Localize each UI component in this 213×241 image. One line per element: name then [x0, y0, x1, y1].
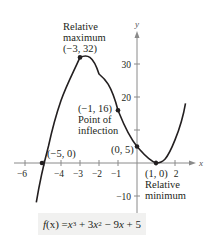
x-tick-label: −3 — [73, 169, 83, 179]
y-tick-label: 30 — [122, 60, 132, 70]
point-y-intercept — [135, 144, 140, 149]
point-relative-maximum — [78, 55, 83, 60]
svg-text:minimum: minimum — [145, 190, 186, 201]
x-axis-label: x — [198, 158, 203, 168]
annotation-inflection: (−1, 16) Point of inflection — [78, 103, 119, 136]
svg-text:(−3, 32): (−3, 32) — [63, 43, 97, 55]
svg-text:inflection: inflection — [78, 125, 119, 136]
formula-term: + 5 — [124, 218, 141, 230]
formula-arg: (x) = — [46, 218, 68, 230]
svg-text:Point of: Point of — [78, 114, 112, 125]
x-axis-arrow-icon — [189, 161, 196, 166]
x-tick-label: −4 — [54, 169, 64, 179]
point-root — [40, 161, 45, 166]
point-relative-minimum — [154, 161, 159, 166]
y-axis-label: y — [134, 19, 139, 29]
y-axis-arrow-icon — [135, 31, 140, 38]
point-inflection — [116, 108, 121, 113]
x-tick-label: −1 — [111, 169, 121, 179]
annotation-relative-minimum: (1, 0) Relative minimum — [145, 168, 186, 201]
function-graph: −6 −4 −3 −2 −1 2 x 30 20 −10 y Relative … — [0, 0, 213, 241]
svg-text:maximum: maximum — [63, 32, 106, 43]
x-tick-label: −2 — [92, 169, 102, 179]
y-tick-label: −10 — [116, 192, 131, 202]
y-tick-label: 20 — [122, 93, 132, 103]
formula-term: − 9 — [102, 218, 119, 230]
formula-term: + 3 — [76, 218, 93, 230]
function-formula: f(x) = x3 + 3x2 − 9x + 5 — [38, 213, 146, 235]
x-tick-label: 2 — [174, 169, 179, 179]
x-tick-label: −6 — [17, 169, 27, 179]
annotation-relative-maximum: Relative maximum (−3, 32) — [63, 21, 106, 55]
annotation-root: (−5, 0) — [47, 148, 76, 160]
svg-text:Relative: Relative — [145, 179, 180, 190]
annotation-y-intercept: (0, 5) — [111, 144, 134, 156]
svg-text:Relative: Relative — [63, 21, 98, 32]
